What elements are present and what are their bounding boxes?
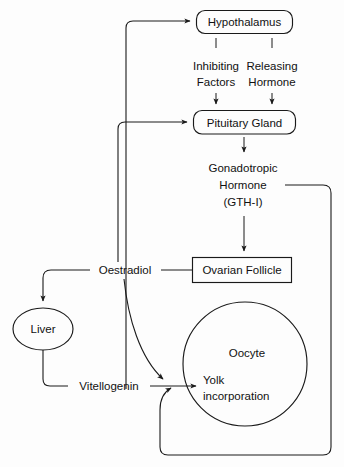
inhibiting-factors-label-line2: Factors <box>197 76 236 88</box>
oestradiol-to-pituitary-feedback-path <box>118 122 187 262</box>
liver-to-vitellogenin-path <box>43 350 68 386</box>
releasing-hormone-label-line2: Hormone <box>248 76 295 88</box>
diagram-canvas: Hypothalamus Pituitary Gland Ovarian Fol… <box>0 0 344 467</box>
vitellogenin-label: Vitellogenin <box>79 380 138 392</box>
gonadotropic-hormone-label-line3: (GTH-I) <box>224 196 263 208</box>
oestradiol-to-liver-path <box>43 270 90 301</box>
oestradiol-curve-to-yolk-path <box>124 279 163 379</box>
ovarian-follicle-label: Ovarian Follicle <box>202 264 281 276</box>
yolk-incorporation-label-line2: incorporation <box>203 390 269 402</box>
gth-bottom-feedback-loop-path <box>160 185 331 455</box>
liver-label: Liver <box>31 323 56 335</box>
gonadotropic-hormone-label-line2: Hormone <box>219 179 266 191</box>
oestradiol-label: Oestradiol <box>99 264 151 276</box>
pituitary-gland-label: Pituitary Gland <box>207 117 282 129</box>
yolk-incorporation-label-line1: Yolk <box>203 374 225 386</box>
gonadotropic-hormone-label-line1: Gonadotropic <box>208 162 277 174</box>
oocyte-label: Oocyte <box>229 347 265 359</box>
hypothalamus-label: Hypothalamus <box>208 16 282 28</box>
diagram-svg: Hypothalamus Pituitary Gland Ovarian Fol… <box>0 0 344 467</box>
releasing-hormone-label-line1: Releasing <box>246 60 297 72</box>
oocyte-circle <box>183 302 307 426</box>
inhibiting-factors-label-line1: Inhibiting <box>193 60 239 72</box>
